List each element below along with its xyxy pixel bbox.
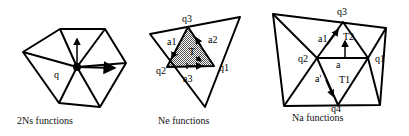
label-a-prime: a'	[315, 73, 321, 84]
label-a2: a2	[208, 34, 217, 45]
label-q1: q1	[375, 53, 385, 64]
panel-2ns: q 2Ns functions	[17, 29, 126, 126]
label-a3: a3	[183, 73, 192, 84]
left-lower-edge	[284, 58, 317, 106]
diagram-canvas: q 2Ns functions q3 q2 q1 a1 a2 a3 T Ne f…	[0, 0, 409, 136]
label-a1: a1	[318, 33, 327, 44]
panel-na: q3 q2 q1 q4 a1 a a' T1 T2 Na functions	[273, 6, 386, 123]
label-q1: q1	[219, 62, 229, 73]
label-a1: a1	[167, 36, 176, 47]
caption-na: Na functions	[292, 112, 343, 123]
label-q3: q3	[182, 13, 192, 24]
label-T1: T1	[339, 74, 350, 85]
caption-2ns: 2Ns functions	[17, 115, 73, 126]
label-q3: q3	[337, 6, 347, 17]
node-dot	[73, 63, 81, 71]
node-label-q: q	[54, 69, 59, 80]
arrow-right-icon	[77, 67, 114, 68]
left-diagonal	[273, 14, 317, 58]
label-a: a	[336, 59, 341, 70]
label-q2: q2	[156, 65, 166, 76]
caption-ne: Ne functions	[158, 115, 209, 126]
label-q2: q2	[298, 53, 308, 64]
label-T2: T2	[343, 31, 354, 42]
label-T: T	[189, 46, 195, 57]
arrow-a-prime-icon	[326, 80, 333, 96]
arrow-a1-icon	[327, 30, 338, 45]
panel-ne: q3 q2 q1 a1 a2 a3 T Ne functions	[150, 13, 240, 126]
